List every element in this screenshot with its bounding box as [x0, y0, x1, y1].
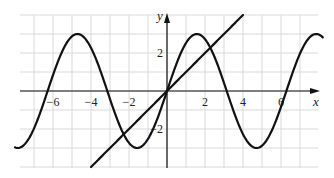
- x-tick-label: 2: [202, 95, 208, 109]
- x-tick-label: 4: [240, 95, 246, 109]
- x-tick-label: −4: [85, 95, 98, 109]
- y-axis-label: y: [155, 8, 163, 23]
- y-tick-label: 2: [157, 46, 163, 60]
- x-axis-label: x: [312, 94, 319, 109]
- x-tick-label: −2: [123, 95, 136, 109]
- x-tick-label: −6: [47, 95, 60, 109]
- function-graph: xy −6−4−22462−2: [0, 0, 334, 178]
